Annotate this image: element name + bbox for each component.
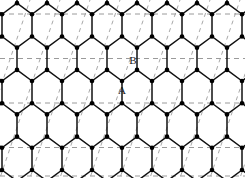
sublattice-label-A: A — [118, 85, 126, 96]
honeycomb-lattice-figure: A B — [0, 0, 245, 178]
sublattice-label-B: B — [129, 55, 136, 66]
